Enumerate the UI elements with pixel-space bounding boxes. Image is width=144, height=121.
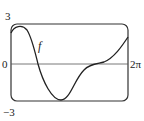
- y-min-label: −3: [3, 106, 15, 118]
- plot-frame: [11, 24, 128, 101]
- curve-label-f: f: [38, 39, 43, 53]
- function-graph: 3 0 −3 2π f: [0, 0, 144, 121]
- y-zero-label: 0: [2, 58, 8, 70]
- x-max-label: 2π: [130, 58, 142, 70]
- y-max-label: 3: [5, 10, 11, 22]
- curve-f: [11, 26, 128, 100]
